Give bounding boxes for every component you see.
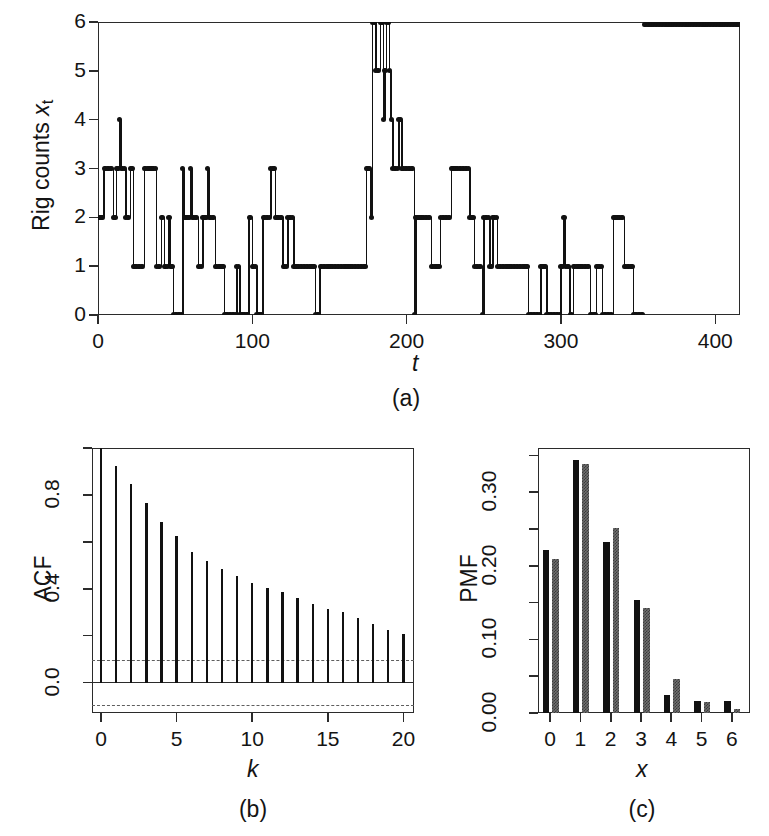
panel-b-acf-stem — [402, 634, 404, 682]
panel-c-xtick-label: 6 — [712, 727, 752, 751]
panel-b-xlabel: k — [247, 756, 259, 783]
panel-b-acf-stem — [236, 576, 238, 683]
panel-a-stem — [415, 217, 417, 315]
panel-a-stem — [198, 217, 200, 266]
panel-a-stem — [633, 266, 635, 315]
panel-a-stem — [130, 169, 132, 218]
panel-b-ytick — [83, 635, 92, 637]
panel-a-stem — [440, 217, 442, 266]
panel-a-time-series: Rig counts xt 0123456 0100200300400 t (a… — [0, 0, 769, 400]
panel-a-xtick-label: 200 — [372, 329, 442, 353]
panel-a-ylabel-main: Rig counts — [28, 116, 54, 231]
panel-a-stem — [431, 217, 433, 266]
panel-b-ytick — [83, 447, 92, 449]
panel-c-xtick — [610, 713, 612, 722]
panel-c-bar-fitted — [582, 464, 589, 713]
panel-c-bar-fitted — [552, 559, 559, 713]
panel-b-acf-stem — [327, 609, 329, 683]
panel-c-caption: (c) — [622, 796, 662, 823]
panel-b-ytick — [83, 682, 92, 684]
panel-b-xtick — [327, 713, 329, 722]
panel-c-xlabel: x — [636, 756, 648, 783]
panel-b-lower-confidence-bound — [92, 705, 414, 706]
panel-c-bar-observed — [724, 701, 731, 714]
panel-b-acf-stem — [100, 448, 102, 683]
panel-c-bar-observed — [603, 542, 610, 714]
panel-b-ytick — [83, 494, 92, 496]
panel-a-ytick-label: 6 — [58, 9, 86, 33]
panel-a-ytick — [89, 21, 98, 23]
panel-a-stem — [546, 266, 548, 315]
panel-c-bar-observed — [634, 600, 641, 713]
panel-c-ytick — [529, 455, 538, 457]
panel-a-stem — [184, 169, 186, 218]
panel-a-stem — [469, 169, 471, 218]
panel-b-acf-stem — [206, 561, 208, 683]
panel-a-stem — [215, 217, 217, 266]
panel-c-ytick-label: 0.30 — [477, 460, 501, 522]
panel-a-stem — [293, 217, 295, 266]
panel-c-ytick-label: 0.00 — [477, 681, 501, 743]
panel-a-stem — [401, 120, 403, 169]
panel-b-acf-stem — [372, 624, 374, 683]
panel-a-stem — [239, 266, 241, 315]
panel-c-pmf-bars — [538, 448, 750, 713]
panel-b-ytick-label: 0.4 — [40, 560, 64, 616]
panel-c-xtick — [731, 713, 733, 722]
panel-b-acf-stem — [160, 522, 162, 683]
panel-c-xtick — [549, 713, 551, 722]
panel-c-bar-observed — [543, 550, 550, 713]
panel-b-acf-stem — [251, 583, 253, 683]
panel-a-stem — [590, 266, 592, 315]
panel-a-stem — [398, 120, 400, 169]
panel-a-stem — [386, 22, 388, 71]
panel-a-point — [737, 22, 740, 27]
panel-b-ytick — [83, 541, 92, 543]
panel-a-stem — [170, 217, 172, 266]
panel-b-ytick-label: 0.8 — [40, 466, 64, 522]
panel-a-stem — [208, 169, 210, 218]
panel-a-stem — [483, 217, 485, 315]
panel-b-xtick-label: 15 — [303, 727, 353, 751]
panel-a-xlabel: t — [412, 350, 418, 377]
panel-a-xtick — [97, 315, 99, 324]
panel-a-stem — [252, 217, 254, 266]
panel-a-ytick-label: 0 — [58, 302, 86, 326]
panel-b-xtick — [100, 713, 102, 722]
panel-a-xtick-label: 300 — [526, 329, 596, 353]
panel-b-xtick-label: 5 — [152, 727, 202, 751]
panel-a-ytick-label: 1 — [58, 253, 86, 277]
panel-a-point — [640, 312, 645, 315]
panel-a-xtick — [560, 315, 562, 324]
panel-a-xtick — [715, 315, 717, 324]
panel-b-acf-stem — [342, 612, 344, 682]
panel-b-ytick-label: 0.0 — [40, 654, 64, 710]
panel-a-xtick-label: 100 — [217, 329, 287, 353]
panel-a-stem — [492, 217, 494, 266]
panel-a-ytick-label: 5 — [58, 58, 86, 82]
panel-a-stem — [389, 22, 391, 71]
panel-a-stem — [236, 266, 238, 315]
panel-a-stem — [489, 217, 491, 266]
panel-b-acf-stem — [145, 503, 147, 682]
panel-b-xtick — [403, 713, 405, 722]
panel-b-acf-stem — [281, 592, 283, 682]
panel-a-ytick-label: 4 — [58, 107, 86, 131]
panel-a-stem — [173, 266, 175, 315]
panel-a-ytick — [89, 168, 98, 170]
panel-c-bar-fitted — [643, 608, 650, 713]
panel-c-bar-observed — [664, 695, 671, 713]
panel-b-caption: (b) — [233, 796, 273, 823]
panel-a-stem — [366, 169, 368, 267]
panel-c-bar-observed — [694, 701, 701, 714]
panel-c-ytick — [529, 565, 538, 567]
panel-a-stem — [497, 217, 499, 266]
panel-c-ytick-label: 0.20 — [477, 534, 501, 596]
panel-b-acf: ACF 0.00.40.8 05101520 k (b) — [0, 400, 420, 836]
panel-b-xtick-label: 0 — [76, 727, 126, 751]
panel-a-stem — [262, 217, 264, 315]
panel-c-bar-observed — [573, 460, 580, 713]
panel-c-ytick — [529, 639, 538, 641]
panel-b-xtick-label: 10 — [227, 727, 277, 751]
panel-c-bar-fitted — [704, 702, 711, 713]
